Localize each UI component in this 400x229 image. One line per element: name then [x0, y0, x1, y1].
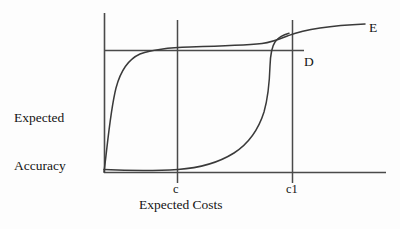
y-axis-label: Expected Accuracy [14, 78, 66, 205]
x-tick-label-c1: c1 [286, 182, 298, 197]
x-axis-label: Expected Costs [139, 197, 223, 213]
curve-label-e: E [369, 20, 377, 36]
figure-expected-accuracy-vs-costs: Expected Accuracy Expected Costs c c1 E … [0, 0, 400, 229]
curve-label-d: D [304, 54, 314, 70]
y-axis-label-line2: Accuracy [14, 158, 66, 174]
curve-e [104, 24, 365, 172]
y-axis-label-line1: Expected [14, 110, 66, 126]
x-tick-label-c: c [173, 182, 179, 197]
curve-d [104, 33, 289, 170]
